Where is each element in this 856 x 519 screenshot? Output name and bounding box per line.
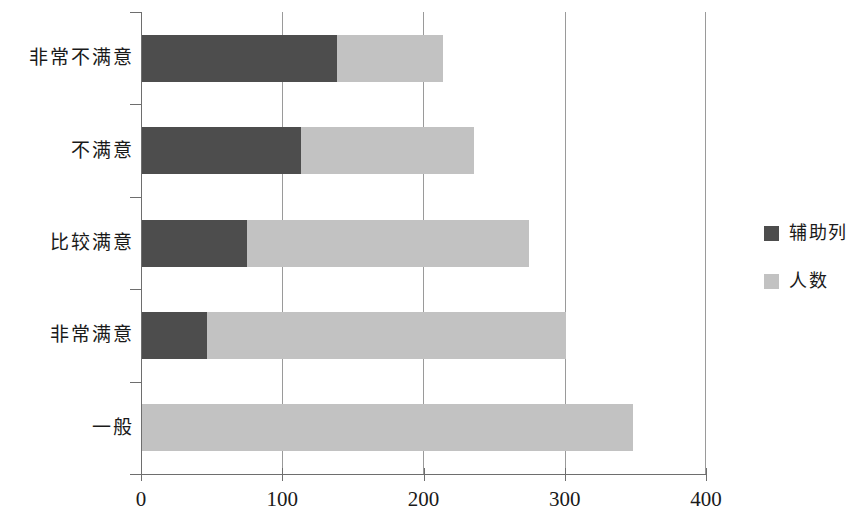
- stacked-bar[interactable]: [141, 404, 633, 451]
- y-axis-labels: 非常不满意不满意比较满意非常满意一般: [0, 12, 134, 474]
- stacked-bar[interactable]: [141, 35, 443, 82]
- y-axis-category-label: 不满意: [9, 139, 134, 163]
- bar-segment-count[interactable]: [337, 35, 443, 82]
- legend-label: 辅助列: [789, 223, 848, 243]
- bar-row: [141, 312, 706, 359]
- bar-segment-auxiliary[interactable]: [141, 312, 207, 359]
- y-axis-category-label: 一般: [9, 416, 134, 440]
- plot-area: [141, 12, 706, 474]
- legend-swatch-icon: [764, 274, 779, 289]
- x-axis-tick: [424, 468, 425, 481]
- legend-item[interactable]: 人数: [764, 270, 856, 292]
- y-axis-line: [141, 12, 142, 474]
- bar-segment-auxiliary[interactable]: [141, 35, 337, 82]
- bar-row: [141, 35, 706, 82]
- x-axis-tick-label: 200: [384, 486, 464, 512]
- y-axis-category-label: 非常不满意: [9, 46, 134, 70]
- y-axis-category-label: 非常满意: [9, 323, 134, 347]
- x-axis-tick: [141, 468, 142, 481]
- stacked-bar[interactable]: [141, 127, 474, 174]
- bar-segment-count[interactable]: [301, 127, 475, 174]
- bar-segment-auxiliary[interactable]: [141, 220, 247, 267]
- y-axis-category-label: 比较满意: [9, 231, 134, 255]
- bar-row: [141, 220, 706, 267]
- chart-legend: 辅助列人数: [764, 222, 856, 318]
- x-axis-tick-label: 300: [525, 486, 605, 512]
- bar-segment-count[interactable]: [247, 220, 530, 267]
- bar-segment-auxiliary[interactable]: [141, 127, 301, 174]
- bar-row: [141, 127, 706, 174]
- stacked-bar[interactable]: [141, 220, 529, 267]
- x-axis-tick-label: 0: [101, 486, 181, 512]
- x-axis-tick: [706, 468, 707, 481]
- y-axis-tick: [130, 474, 141, 475]
- x-axis-tick: [282, 468, 283, 481]
- legend-item[interactable]: 辅助列: [764, 222, 856, 244]
- x-axis-tick: [565, 468, 566, 481]
- bar-row: [141, 404, 706, 451]
- legend-label: 人数: [789, 271, 828, 291]
- stacked-bar[interactable]: [141, 312, 566, 359]
- stacked-bar-chart: 非常不满意不满意比较满意非常满意一般 0100200300400 辅助列人数: [0, 0, 856, 519]
- x-axis-tick-label: 100: [242, 486, 322, 512]
- legend-swatch-icon: [764, 226, 779, 241]
- bar-segment-count[interactable]: [207, 312, 566, 359]
- x-axis-tick-label: 400: [666, 486, 746, 512]
- bar-segment-count[interactable]: [141, 404, 633, 451]
